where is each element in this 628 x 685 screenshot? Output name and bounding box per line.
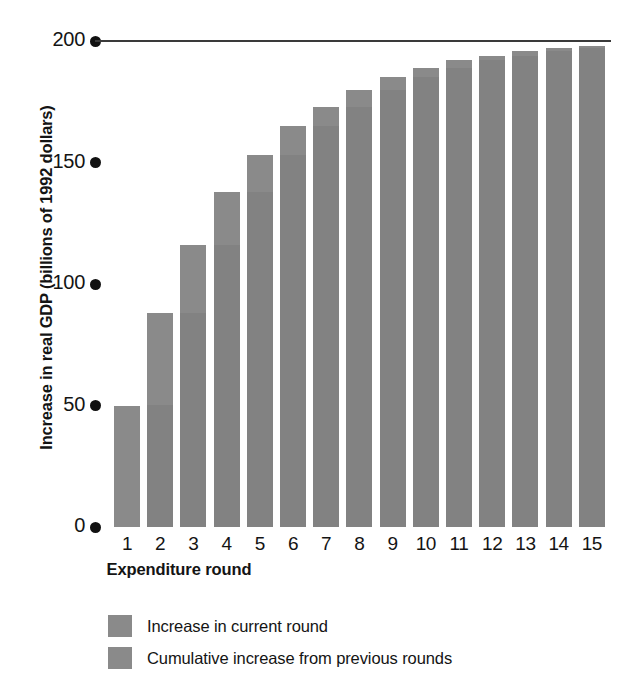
x-axis-tick-label: 10 [413,533,439,555]
x-axis-tick-label: 8 [346,533,372,555]
legend-swatch-previous-rounds [108,647,132,669]
bar [280,126,306,527]
bar-series-group [95,30,605,530]
x-axis-tick-label: 7 [313,533,339,555]
y-axis-tick-label: 100 [53,271,85,294]
x-axis-tick-label: 4 [214,533,240,555]
y-axis-tick-label: 50 [63,393,85,416]
bar-segment-current-round [214,192,240,245]
x-axis-tick-label: 9 [380,533,406,555]
legend-label-current-round: Increase in current round [147,617,328,636]
y-axis-tick-label: 200 [53,28,85,51]
bar-segment-current-round [180,245,206,313]
bar-segment-previous-rounds [446,68,472,527]
bar [180,245,206,527]
bar-segment-previous-rounds [512,56,538,527]
x-axis-tick-label: 12 [479,533,505,555]
bar [446,60,472,527]
bar-segment-previous-rounds [313,126,339,527]
bar-segment-current-round [280,126,306,155]
x-axis-title: Expenditure round [54,560,304,579]
bar [413,68,439,527]
bar [579,46,605,527]
bar-segment-previous-rounds [413,77,439,527]
bar-segment-previous-rounds [479,60,505,527]
bar-segment-current-round [247,155,273,191]
bar [346,90,372,527]
bar-segment-current-round [413,68,439,78]
bar [247,155,273,527]
bar-segment-current-round [147,313,173,405]
x-axis-tick-label: 13 [512,533,538,555]
bar-segment-current-round [346,90,372,107]
x-axis-tick-label: 3 [180,533,206,555]
bar-segment-previous-rounds [247,192,273,527]
legend-item-current-round: Increase in current round [108,612,452,640]
bar-segment-previous-rounds [579,48,605,527]
bar [214,192,240,527]
bar-segment-previous-rounds [380,90,406,527]
x-axis-tick-label: 6 [280,533,306,555]
bar-segment-current-round [446,60,472,67]
bar [512,51,538,527]
plot-area: 050100150200 [95,30,605,530]
x-axis-tick-label: 11 [446,533,472,555]
x-axis-tick-label: 1 [114,533,140,555]
y-axis-tick-label: 150 [53,150,85,173]
bar [479,56,505,527]
bar [380,77,406,527]
bar-segment-previous-rounds [546,51,572,527]
bar [147,313,173,527]
bar-segment-current-round [114,406,140,528]
x-axis-tick-label: 2 [147,533,173,555]
bar-segment-previous-rounds [214,245,240,527]
x-axis-tick-label: 5 [247,533,273,555]
bar [114,406,140,528]
x-axis-tick-label: 15 [579,533,605,555]
chart-figure: Increase in real GDP (billions of 1992 d… [0,0,628,685]
bar-segment-current-round [313,107,339,126]
bar-segment-previous-rounds [280,155,306,527]
legend-label-previous-rounds: Cumulative increase from previous rounds [147,649,452,668]
bar-segment-previous-rounds [180,313,206,527]
bar [313,107,339,527]
bar-segment-current-round [380,77,406,89]
chart-legend: Increase in current round Cumulative inc… [108,612,452,676]
legend-swatch-current-round [108,615,132,637]
bar-segment-previous-rounds [147,405,173,527]
x-axis-tick-label: 14 [546,533,572,555]
y-axis-tick-label: 0 [74,514,85,537]
bar-segment-previous-rounds [346,107,372,527]
legend-item-previous-rounds: Cumulative increase from previous rounds [108,644,452,672]
bar [546,48,572,527]
